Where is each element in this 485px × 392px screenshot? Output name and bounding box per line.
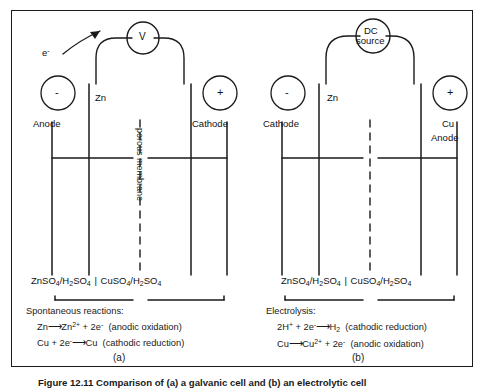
panel-b-electrode-material-label: Zn <box>327 93 338 104</box>
figure-caption: Figure 12.11 Comparison of (a) a galvani… <box>38 377 458 389</box>
panel-a-reactions: Spontaneous reactions: Zn⟶Zn2+ + 2e- (an… <box>26 304 184 350</box>
panel-a-reaction-1: Zn⟶Zn2+ + 2e- (anodic oxidation) <box>26 319 184 334</box>
panel-b-reactions: Electrolysis: 2H+ + 2e-⟶H2 (cathodic red… <box>266 304 427 352</box>
panel-b-reaction-2: Cu⟶Cu2+ + 2e- (anodic oxidation) <box>266 336 427 351</box>
panel-a-membrane-label: porous membrane <box>135 128 145 201</box>
panel-a-electron-label: e- <box>42 47 50 59</box>
figure-root: V e- - + Anode Cathode Zn porous membran… <box>0 0 485 392</box>
panel-a-negative-terminal-sign: - <box>55 86 59 99</box>
panel-b-cathode-label: Cathode <box>263 119 299 130</box>
panel-b-source-label-line2: source <box>356 36 385 47</box>
panel-b-reaction-1: 2H+ + 2e-⟶H2 (cathodic reduction) <box>266 319 427 336</box>
panel-a-reactions-heading: Spontaneous reactions: <box>26 304 184 318</box>
panel-b-electrolyte-label: ZnSO4/H2SO4 | CuSO4/H2SO4 <box>281 276 411 288</box>
panel-a-electrolyte-label: ZnSO4/H2SO4 | CuSO4/H2SO4 <box>31 276 161 288</box>
panel-a-meter-label: V <box>139 31 146 43</box>
panel-a-tag: (a) <box>113 352 125 363</box>
panel-a-reaction-2: Cu + 2e-⟶Cu (cathodic reduction) <box>26 335 184 350</box>
panel-a-electrode-material-label: Zn <box>95 93 106 104</box>
panel-a-positive-terminal-sign: + <box>217 86 223 99</box>
panel-b-tag: (b) <box>352 352 364 363</box>
panel-b-negative-terminal-sign: - <box>285 86 289 99</box>
panel-a-anode-label: Anode <box>33 119 60 130</box>
panel-b-reactions-heading: Electrolysis: <box>266 304 427 318</box>
panel-b-positive-terminal-sign: + <box>447 86 453 99</box>
panel-b-right-electrode-material-label: Cu <box>442 119 454 130</box>
panel-b-anode-label: Anode <box>431 133 458 144</box>
panel-a-cathode-label: Cathode <box>192 119 228 130</box>
